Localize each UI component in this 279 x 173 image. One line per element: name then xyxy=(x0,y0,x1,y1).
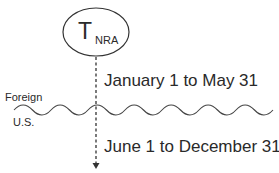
entity-ellipse xyxy=(63,8,129,56)
node-label-main: T xyxy=(78,18,92,45)
border-wave xyxy=(14,105,273,115)
arrow-down-icon xyxy=(93,163,100,169)
region-us-label: U.S. xyxy=(13,117,34,128)
period-first-label: January 1 to May 31 xyxy=(104,72,258,89)
period-second-label: June 1 to December 31 xyxy=(104,138,279,155)
region-foreign-label: Foreign xyxy=(5,92,42,103)
node-label-subscript: NRA xyxy=(95,34,118,46)
